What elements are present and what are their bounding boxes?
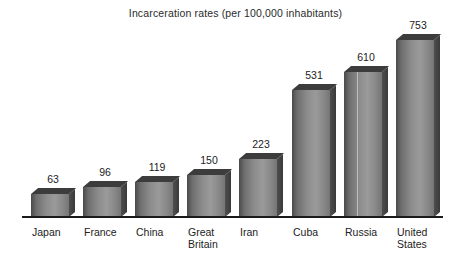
bar-front-face <box>83 187 121 217</box>
category-label: France <box>84 226 136 238</box>
bar <box>396 34 434 217</box>
x-axis-line <box>22 216 443 218</box>
bar-value-label: 531 <box>286 69 342 81</box>
category-label: Great Britain <box>188 226 240 250</box>
bar-side-face <box>434 35 440 217</box>
plot-area: 6396119150223531610753 JapanFranceChinaG… <box>0 0 471 258</box>
bar-value-label: 753 <box>390 19 446 31</box>
bar-front-face <box>292 90 330 217</box>
bar-front-face <box>396 40 434 217</box>
bar <box>344 66 382 217</box>
bar-side-face <box>173 177 179 217</box>
bar-side-face <box>277 154 283 217</box>
bar-value-label: 96 <box>77 166 133 178</box>
bar <box>31 188 69 217</box>
bar-front-face <box>135 182 173 217</box>
bar-top-face <box>135 176 180 182</box>
bar <box>135 176 173 217</box>
bar-top-face <box>187 169 232 175</box>
bar-top-face <box>292 84 337 90</box>
bar <box>187 169 225 217</box>
bar <box>292 84 330 217</box>
category-label: Russia <box>345 226 397 238</box>
bar-value-label: 119 <box>129 161 185 173</box>
bar-side-face <box>330 85 336 217</box>
bar-top-face <box>83 181 128 187</box>
category-label: Iran <box>240 226 292 238</box>
category-label: China <box>136 226 188 238</box>
bar-value-label: 223 <box>233 138 289 150</box>
bar-side-face <box>225 170 231 217</box>
bar-front-face <box>344 72 382 217</box>
bar <box>83 181 121 217</box>
incarceration-rates-chart: Incarceration rates (per 100,000 inhabit… <box>0 0 471 258</box>
bar-front-face <box>239 159 277 217</box>
bar-value-label: 63 <box>25 173 81 185</box>
bar-top-face <box>396 34 441 40</box>
bar-top-face <box>31 188 76 194</box>
bar-value-label: 610 <box>338 51 394 63</box>
bar-top-face <box>239 153 284 159</box>
bar-side-face <box>382 67 388 217</box>
bar-highlight-streak <box>357 72 358 217</box>
category-label: Japan <box>32 226 84 238</box>
category-label: United States <box>397 226 449 250</box>
bar <box>239 153 277 217</box>
bar-front-face <box>31 194 69 217</box>
bar-value-label: 150 <box>181 154 237 166</box>
bar-front-face <box>187 175 225 217</box>
category-label: Cuba <box>293 226 345 238</box>
bar-side-face <box>121 182 127 217</box>
bar-top-face <box>344 66 389 72</box>
